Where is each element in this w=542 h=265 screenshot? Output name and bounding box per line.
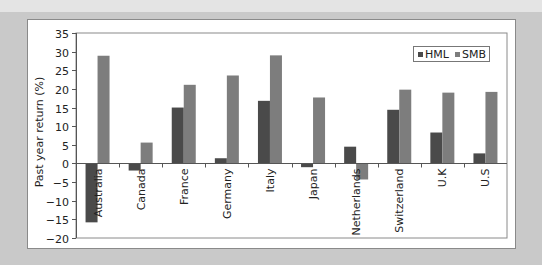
y-tick-label: 20 <box>55 84 69 97</box>
bar-smb-uk <box>442 93 454 164</box>
bar-smb-canada <box>141 143 153 164</box>
bar-hml-netherlands <box>344 147 356 164</box>
category-label: France <box>178 168 191 205</box>
y-tick-label: 35 <box>55 28 69 41</box>
legend-swatch-icon <box>418 52 423 57</box>
category-label: Switzerland <box>393 169 406 233</box>
bar-smb-us <box>485 92 497 164</box>
category-label: Australia <box>92 169 105 218</box>
y-tick-label: 15 <box>55 103 69 116</box>
y-tick-label: 5 <box>62 140 69 153</box>
category-label: U.K <box>436 168 449 188</box>
category-label: Germany <box>221 168 234 219</box>
legend-swatch-icon <box>455 52 460 57</box>
legend-label: HML <box>425 48 450 61</box>
bar-smb-switzerland <box>399 90 411 164</box>
bar-hml-france <box>172 108 184 164</box>
bar-chart: 35302520151050−5−10−15−20 AustraliaCanad… <box>0 0 542 265</box>
y-axis-title: Past year return (%) <box>33 77 46 188</box>
y-tick-label: 30 <box>55 47 69 60</box>
category-label: Netherlands <box>350 168 363 235</box>
y-tick-label: −20 <box>46 233 69 246</box>
bar-hml-japan <box>301 163 313 167</box>
x-axis: AustraliaCanadaFranceGermanyItalyJapanNe… <box>76 164 507 236</box>
y-tick-label: 25 <box>55 65 69 78</box>
category-label: Japan <box>307 168 320 200</box>
y-tick-label: 0 <box>62 158 69 171</box>
bar-smb-japan <box>313 97 325 163</box>
bar-smb-france <box>184 85 196 164</box>
bar-hml-uk <box>430 133 442 164</box>
category-label: Italy <box>264 168 277 192</box>
y-tick-label: −15 <box>46 214 69 227</box>
bar-hml-germany <box>215 158 227 163</box>
bar-smb-italy <box>270 55 282 163</box>
y-tick-label: −10 <box>46 196 69 209</box>
y-tick-label: 10 <box>55 121 69 134</box>
legend: HMLSMB <box>414 47 490 62</box>
y-tick-label: −5 <box>53 177 69 190</box>
category-label: Canada <box>135 169 148 211</box>
category-label: U.S <box>479 168 492 187</box>
bar-hml-us <box>473 153 485 163</box>
bar-hml-italy <box>258 101 270 164</box>
legend-label: SMB <box>462 48 486 61</box>
bar-smb-germany <box>227 75 239 163</box>
bar-hml-switzerland <box>387 110 399 164</box>
bar-smb-australia <box>98 56 110 164</box>
